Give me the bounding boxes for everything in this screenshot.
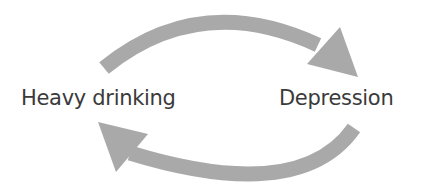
- node-heavy-drinking: Heavy drinking: [21, 88, 176, 109]
- arrow-bottom-depression-to-heavy-drinking: [98, 122, 354, 174]
- node-depression: Depression: [279, 88, 393, 109]
- arrow-top-heavy-drinking-to-depression: [104, 22, 358, 77]
